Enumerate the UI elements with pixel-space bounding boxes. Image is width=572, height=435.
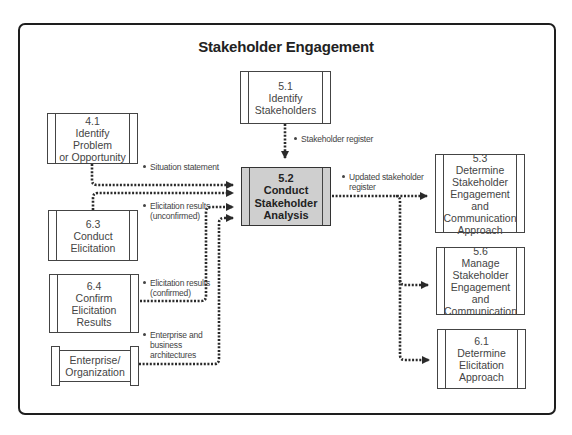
box-line: Stakeholder (444, 176, 517, 188)
box-number: 5.6 (444, 245, 517, 257)
box-line: Elicitation (71, 242, 116, 254)
bullet-icon (342, 175, 345, 178)
label-text: Stakeholder register (301, 134, 373, 144)
box-number: 5.2 (255, 172, 318, 185)
box-line: Approach (457, 371, 505, 383)
box-number: 5.3 (444, 152, 517, 164)
box-line: Communication (444, 305, 517, 317)
box-line: Determine (444, 164, 517, 176)
bullet-icon (143, 281, 146, 284)
label-text: Elicitation results (150, 201, 210, 211)
box-line: Results (72, 316, 117, 328)
scroll-bar-right (130, 346, 139, 386)
scroll-body: Enterprise/ Organization (59, 350, 131, 382)
process-box-5.2-conduct-stakeholder-analysis: 5.2 Conduct Stakeholder Analysis (241, 167, 331, 226)
label-text: Enterprise and (150, 330, 202, 340)
box-line: Confirm (72, 292, 117, 304)
process-box-5.3-determine-engagement: 5.3 Determine Stakeholder Engagement and… (435, 154, 525, 233)
box-line: Elicitation (72, 304, 117, 316)
box-line: Conduct (71, 230, 116, 242)
label-text: business (143, 340, 202, 350)
bullet-icon (294, 137, 297, 140)
box-line: Identify Problem (58, 127, 127, 151)
label-text: (unconfirmed) (143, 211, 210, 221)
box-line: Identify (255, 92, 316, 104)
box-line: Enterprise/ (65, 354, 125, 366)
box-number: 5.1 (255, 80, 316, 92)
box-line: Stakeholders (255, 104, 316, 116)
label-elicitation-confirmed: Elicitation results (confirmed) (143, 278, 210, 298)
box-line: Conduct (255, 184, 318, 197)
box-line: Engagement and (444, 188, 517, 212)
label-text: Situation statement (150, 162, 219, 172)
process-box-4.1-identify-problem: 4.1 Identify Problem or Opportunity (47, 113, 138, 164)
box-line: Engagement and (444, 281, 517, 305)
label-text: architectures (143, 350, 202, 360)
box-number: 6.3 (71, 218, 116, 230)
box-line: Stakeholder (444, 269, 517, 281)
label-text: Elicitation results (150, 278, 210, 288)
label-text: Updated stakeholder (349, 172, 424, 182)
box-line: Elicitation (457, 359, 505, 371)
process-box-5.1-identify-stakeholders: 5.1 Identify Stakeholders (240, 71, 331, 124)
label-stakeholder-register: Stakeholder register (294, 134, 373, 144)
external-box-enterprise-organization: Enterprise/ Organization (51, 346, 139, 386)
process-box-5.6-manage-engagement: 5.6 Manage Stakeholder Engagement and Co… (436, 247, 525, 315)
box-number: 6.4 (72, 280, 117, 292)
box-line: Manage (444, 257, 517, 269)
box-number: 4.1 (58, 115, 127, 127)
box-line: Approach (444, 224, 517, 236)
label-updated-stakeholder-register: Updated stakeholder register (342, 172, 424, 192)
box-line: Determine (457, 347, 505, 359)
box-line: Communication (444, 212, 517, 224)
process-box-6.4-confirm-elicitation: 6.4 Confirm Elicitation Results (49, 274, 139, 333)
box-line: or Opportunity (58, 151, 127, 163)
box-line: Analysis (255, 209, 318, 222)
label-situation-statement: Situation statement (143, 162, 219, 172)
bullet-icon (143, 333, 146, 336)
box-line: Organization (65, 366, 125, 378)
bullet-icon (143, 165, 146, 168)
label-elicitation-unconfirmed: Elicitation results (unconfirmed) (143, 201, 210, 221)
diagram-title: Stakeholder Engagement (0, 38, 572, 55)
process-box-6.1-determine-elicitation-approach: 6.1 Determine Elicitation Approach (437, 329, 526, 389)
label-text: (confirmed) (143, 288, 210, 298)
box-line: Stakeholder (255, 197, 318, 210)
process-box-6.3-conduct-elicitation: 6.3 Conduct Elicitation (48, 210, 138, 261)
bullet-icon (143, 204, 146, 207)
label-enterprise-architectures: Enterprise and business architectures (143, 330, 202, 360)
box-number: 6.1 (457, 335, 505, 347)
label-text: register (342, 182, 424, 192)
